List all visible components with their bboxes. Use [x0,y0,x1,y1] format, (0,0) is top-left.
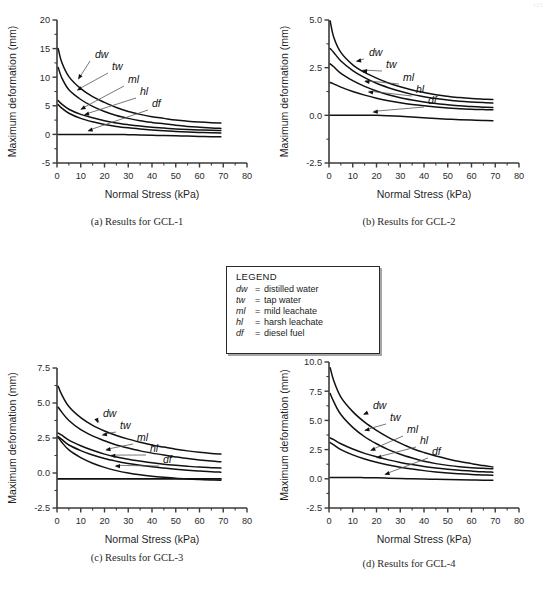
x-tick-label: 40 [419,171,429,181]
y-tick-label: 2.5 [309,63,322,73]
x-tick-label: 70 [490,171,500,181]
y-tick-label: 10.0 [304,357,322,367]
caption-gcl-3: (c) Results for GCL-3 [0,552,274,563]
x-axis-title: Normal Stress (kPa) [377,533,472,545]
legend-title: LEGEND [236,271,379,282]
x-tick-label: 50 [443,516,453,526]
x-tick-label: 0 [54,516,59,526]
curve-label-ml: ml [128,73,140,85]
x-tick-label: 50 [171,516,181,526]
legend-rows: dw=distilled watertw=tap waterml=mild le… [227,284,379,338]
curve-df [330,115,493,120]
x-tick-label: 10 [348,171,358,181]
curve-df [58,437,221,480]
curve-ml [58,101,221,131]
legend-text: tap water [264,295,301,305]
chart-panel-gcl-1: -50510152001020304050607080Normal Stress… [0,0,274,250]
x-tick-label: 50 [443,171,453,181]
leader-arrow-ml [370,447,376,451]
x-tick-label: 30 [395,516,405,526]
x-tick-label: 60 [194,171,204,181]
legend-text: harsh leachate [264,317,323,327]
y-tick-label: 0.0 [309,111,322,121]
curve-df [330,477,493,480]
curve-label-dw: dw [95,48,110,60]
y-tick-label: 0.0 [309,474,322,484]
x-tick-label: 40 [147,516,157,526]
chart-panel-gcl-3: -2.50.02.55.07.501020304050607080Normal … [0,340,274,590]
curve-df [58,134,221,136]
curve-label-hl: hl [150,442,159,454]
y-tick-label: 5 [45,101,50,111]
curve-label-dw: dw [373,399,388,411]
curve-label-ml: ml [403,71,415,83]
x-tick-label: 70 [218,516,228,526]
y-tick-label: 2.5 [37,433,50,443]
x-tick-label: 60 [466,171,476,181]
x-tick-label: 0 [326,171,331,181]
legend-box: LEGEND dw=distilled watertw=tap waterml=… [226,266,380,354]
curve-label-tw: tw [112,60,124,72]
y-axis-title: Maximum deformation (mm) [6,26,18,157]
legend-equals: = [255,284,264,294]
caption-gcl-1: (a) Results for GCL-1 [0,216,274,227]
chart-svg-gcl-2: -2.50.02.55.001020304050607080Normal Str… [272,0,546,250]
curve-label-df: df [432,445,442,457]
legend-symbol: df [236,328,255,338]
x-tick-label: 0 [326,516,331,526]
leader-arrow-ml [80,105,86,109]
curve-label-dw: dw [369,46,384,58]
y-tick-label: -2.5 [34,503,50,513]
x-tick-label: 30 [123,516,133,526]
curve-label-hl: hl [416,83,425,95]
y-tick-label: 0.0 [37,468,50,478]
chart-panel-gcl-2: -2.50.02.55.001020304050607080Normal Str… [272,0,546,250]
y-tick-label: 5.0 [37,398,50,408]
curve-label-hl: hl [420,434,429,446]
legend-row-hl: hl=harsh leachate [236,317,379,327]
caption-gcl-2: (b) Results for GCL-2 [272,216,546,227]
x-tick-label: 50 [171,171,181,181]
x-tick-label: 60 [466,516,476,526]
legend-equals: = [255,328,264,338]
x-tick-label: 10 [348,516,358,526]
y-axis-title: Maximum deformation (mm) [278,26,290,157]
x-tick-label: 40 [147,171,157,181]
y-axis-title: Maximum deformation (mm) [278,369,290,500]
curve-label-hl: hl [140,85,149,97]
legend-symbol: hl [236,317,255,327]
curve-label-df: df [428,94,438,106]
legend-equals: = [255,295,264,305]
x-axis-title: Normal Stress (kPa) [377,188,472,200]
x-tick-label: 30 [123,171,133,181]
x-tick-label: 10 [76,516,86,526]
leader-arrow-dw [94,418,98,424]
curve-label-df: df [163,453,173,465]
x-tick-label: 0 [54,171,59,181]
leader-line-df [116,465,159,466]
x-tick-label: 80 [514,516,524,526]
y-tick-label: -2.5 [306,503,322,513]
x-tick-label: 80 [242,516,252,526]
curve-label-ml: ml [407,423,419,435]
x-tick-label: 20 [99,171,109,181]
x-tick-label: 60 [194,516,204,526]
chart-panel-gcl-4: -2.50.02.55.07.510.001020304050607080Nor… [272,340,546,590]
x-tick-label: 40 [419,516,429,526]
legend-symbol: tw [236,295,255,305]
legend-symbol: dw [236,284,255,294]
curve-dw [330,21,493,100]
y-tick-label: 15 [40,44,50,54]
x-tick-label: 70 [490,516,500,526]
leader-arrow-dw [78,74,83,80]
chart-svg-gcl-1: -50510152001020304050607080Normal Stress… [0,0,274,250]
leader-arrow-df [373,110,378,114]
leader-arrow-dw [363,411,369,415]
curve-dw [58,386,221,454]
legend-text: distilled water [264,284,319,294]
y-tick-label: 5.0 [309,416,322,426]
legend-row-ml: ml=mild leachate [236,306,379,316]
x-tick-label: 30 [395,171,405,181]
leader-line-ml [81,86,124,109]
legend-symbol: ml [236,306,255,316]
